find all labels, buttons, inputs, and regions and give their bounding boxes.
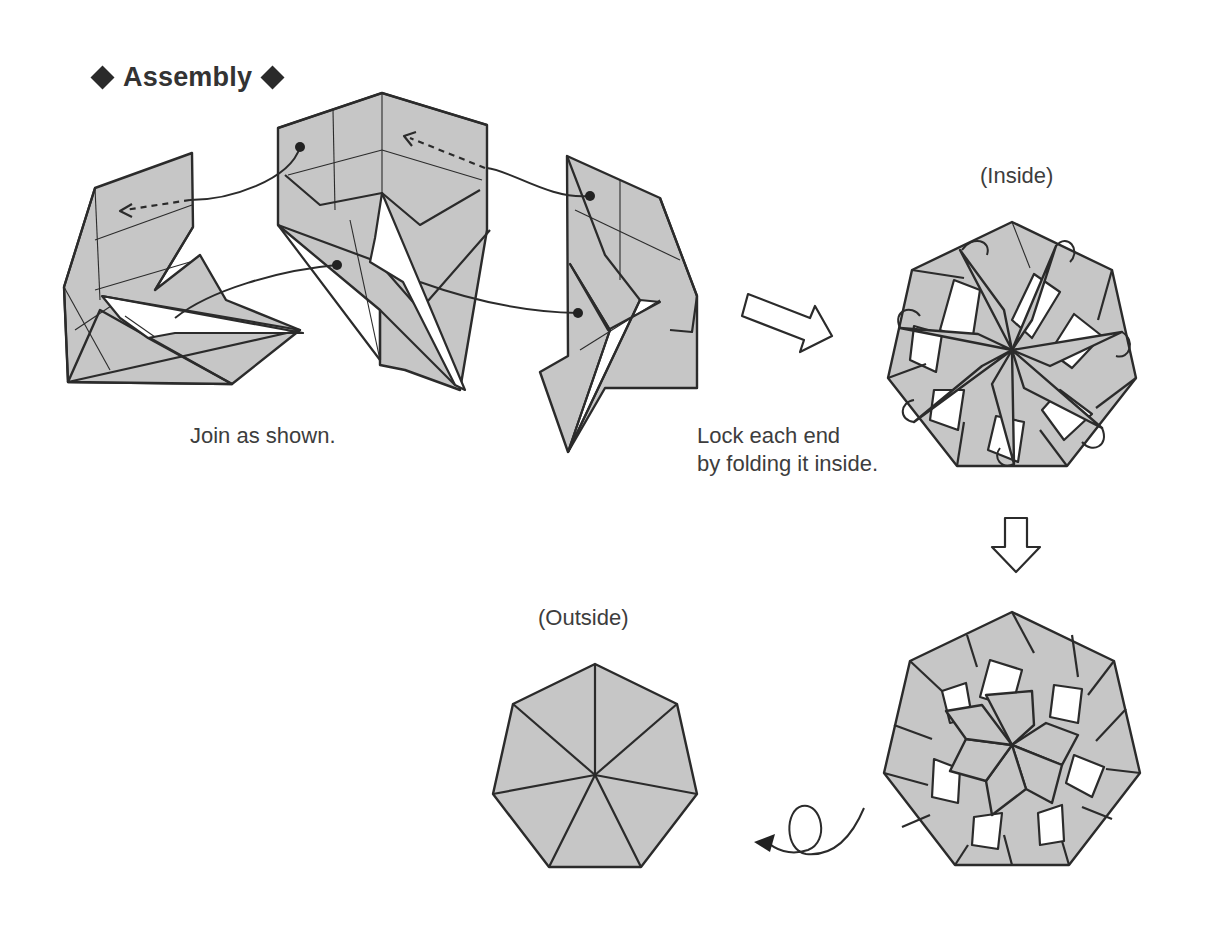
join-caption: Join as shown. [190,422,336,450]
lock-caption-line-1: Lock each end [697,422,878,450]
outside-heptagon [493,664,697,867]
lock-caption: Lock each end by folding it inside. [697,422,878,478]
assembly-diagram [0,0,1210,930]
hollow-arrow-right-icon [742,294,832,352]
locked-heptagon [884,612,1140,865]
left-unit [64,153,303,384]
turn-over-arrow-icon [754,806,864,855]
outside-label: (Outside) [538,604,628,632]
inside-heptagon [888,222,1136,466]
inside-label: (Inside) [980,162,1053,190]
middle-unit [278,93,490,390]
hollow-arrow-down-icon [992,518,1040,572]
lock-caption-line-2: by folding it inside. [697,450,878,478]
right-unit [540,156,697,452]
